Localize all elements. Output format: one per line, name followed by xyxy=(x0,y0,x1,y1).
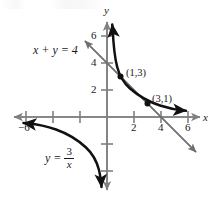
y-tick-label-2: 2 xyxy=(91,84,97,95)
point-marker-3-1 xyxy=(145,101,151,107)
hyperbola-branch-positive xyxy=(112,25,186,111)
x-tick-label-4: 4 xyxy=(158,122,164,133)
x-tick-label--6: −6 xyxy=(18,122,30,133)
fraction-denominator: x xyxy=(65,159,74,171)
fraction-numerator: 3 xyxy=(64,146,74,158)
y-tick-label-6: 6 xyxy=(91,30,97,41)
coordinate-plot xyxy=(0,0,217,201)
y-axis-label: y xyxy=(104,5,109,16)
x-tick-label-6: 6 xyxy=(185,122,191,133)
curve-equation-lhs: y = xyxy=(45,151,61,166)
point-label-3-1: (3,1) xyxy=(152,94,172,105)
y-tick-label-4: 4 xyxy=(91,57,97,68)
line-equation-label: x + y = 4 xyxy=(33,44,78,56)
point-marker-1-3 xyxy=(118,74,124,80)
graph-figure: x y −6 2 4 6 6 4 2 x + y = 4 (1,3) (3,1)… xyxy=(0,0,217,201)
x-axis-label: x xyxy=(203,112,208,123)
x-tick-label-2: 2 xyxy=(131,122,137,133)
curve-equation-label: y = 3 x xyxy=(45,146,74,170)
point-label-1-3: (1,3) xyxy=(126,68,146,79)
fraction-3-over-x: 3 x xyxy=(64,146,74,170)
